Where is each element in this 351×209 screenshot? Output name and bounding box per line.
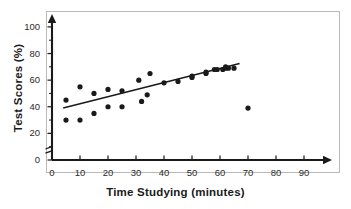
- data-point: [231, 66, 236, 71]
- data-point: [119, 88, 124, 93]
- x-tick-label: 70: [236, 167, 260, 178]
- x-tick-label: 90: [292, 167, 316, 178]
- data-point: [119, 104, 124, 109]
- x-tick-label: 80: [264, 167, 288, 178]
- data-point: [245, 105, 250, 110]
- data-point: [189, 74, 194, 79]
- y-tick-label: 100: [16, 21, 40, 32]
- data-point: [161, 80, 166, 85]
- tick-marks: [48, 27, 305, 160]
- scatter-plot-figure: Time Studying (minutes) Test Scores (%) …: [0, 0, 351, 209]
- data-point: [63, 117, 68, 122]
- y-tick-label: 20: [16, 127, 40, 138]
- data-point: [226, 66, 231, 71]
- x-tick-label: 20: [96, 167, 120, 178]
- data-point: [203, 70, 208, 75]
- data-point: [105, 87, 110, 92]
- x-tick-label: 0: [40, 167, 64, 178]
- data-point: [105, 104, 110, 109]
- data-point: [215, 67, 220, 72]
- y-tick-label: 80: [16, 48, 40, 59]
- y-axis-arrowhead: [48, 14, 56, 23]
- x-tick-label: 50: [180, 167, 204, 178]
- x-axis-label: Time Studying (minutes): [0, 186, 351, 198]
- data-points: [63, 64, 250, 122]
- x-tick-label: 30: [124, 167, 148, 178]
- y-tick-label: 40: [16, 101, 40, 112]
- x-tick-label: 10: [68, 167, 92, 178]
- data-point: [139, 99, 144, 104]
- data-point: [145, 92, 150, 97]
- y-tick-label: 0: [16, 154, 40, 165]
- x-axis-arrowhead: [323, 156, 332, 164]
- data-point: [63, 98, 68, 103]
- axis-group: [48, 14, 332, 164]
- data-point: [91, 111, 96, 116]
- data-point: [136, 78, 141, 83]
- data-point: [77, 84, 82, 89]
- x-tick-label: 40: [152, 167, 176, 178]
- data-point: [175, 79, 180, 84]
- y-tick-label: 60: [16, 74, 40, 85]
- data-point: [147, 71, 152, 76]
- data-point: [91, 91, 96, 96]
- data-point: [77, 117, 82, 122]
- x-tick-label: 60: [208, 167, 232, 178]
